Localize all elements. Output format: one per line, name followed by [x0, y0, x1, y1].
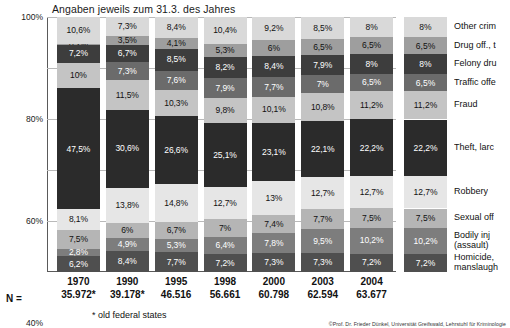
- bar-segment[interactable]: 7,3%: [106, 17, 149, 36]
- bar-segment[interactable]: 7,2%: [350, 254, 393, 272]
- bar-segment[interactable]: 2,8%: [57, 249, 100, 256]
- bar-segment[interactable]: 6,5%: [350, 37, 393, 54]
- bar-segment[interactable]: 3,5%: [106, 36, 149, 45]
- bar-segment[interactable]: 8%: [350, 54, 393, 74]
- bar-segment[interactable]: 9,2%: [252, 17, 295, 40]
- legend-item[interactable]: 6,5%Drug off., t: [404, 37, 510, 54]
- bar-column[interactable]: 7,3%3,5%6,7%7,3%11,5%30,6%13,8%6%4,9%8,4…: [103, 17, 152, 272]
- bar-segment[interactable]: 10,3%: [155, 90, 198, 116]
- bar-stack: 7,3%3,5%6,7%7,3%11,5%30,6%13,8%6%4,9%8,4…: [106, 17, 149, 272]
- legend-item[interactable]: 11,2%Fraud: [404, 91, 510, 120]
- bar-segment[interactable]: 6,5%: [350, 74, 393, 91]
- bar-column[interactable]: 10,6%0,2%7,2%10%47,5%8,1%7,5%2,8%6,2%: [54, 17, 103, 272]
- bar-segment[interactable]: 8%: [350, 17, 393, 37]
- bar-segment[interactable]: 22,1%: [301, 121, 344, 177]
- legend-item[interactable]: 22,2%Theft, larc: [404, 120, 510, 177]
- legend-item[interactable]: 7,2%Homicide,manslaugh: [404, 254, 510, 272]
- bar-column[interactable]: 9,2%6%8,4%7,7%10,1%23,1%13%7,4%7,8%7,3%: [249, 17, 298, 272]
- bar-segment[interactable]: 23,1%: [252, 123, 295, 182]
- bar-segment[interactable]: 7,9%: [301, 55, 344, 75]
- bar-segment[interactable]: 8,5%: [155, 49, 198, 71]
- legend-item[interactable]: 8%Other crim: [404, 17, 510, 37]
- bar-segment[interactable]: 7,5%: [57, 230, 100, 249]
- bar-segment[interactable]: 7%: [301, 75, 344, 93]
- bar-segment[interactable]: 7,8%: [252, 233, 295, 253]
- bar-segment[interactable]: 9,5%: [301, 229, 344, 253]
- legend-swatch: 12,7%: [404, 176, 447, 208]
- bar-segment[interactable]: 7%: [204, 219, 247, 237]
- bar-segment[interactable]: 6,5%: [301, 39, 344, 56]
- bar-segment[interactable]: 10,6%: [57, 17, 100, 44]
- bar-segment-label: 8,1%: [69, 215, 88, 224]
- bar-segment[interactable]: 7,5%: [350, 208, 393, 227]
- bar-columns: 10,6%0,2%7,2%10%47,5%8,1%7,5%2,8%6,2%7,3…: [47, 17, 396, 272]
- bar-segment[interactable]: 7,3%: [106, 62, 149, 81]
- bar-segment[interactable]: 10,4%: [204, 17, 247, 44]
- bar-column[interactable]: 8%6,5%8%6,5%11,2%22,2%12,7%7,5%10,2%7,2%: [347, 17, 396, 272]
- legend-item[interactable]: 10,2%Bodily inj(assault): [404, 228, 510, 254]
- bar-segment-label: 10,2%: [360, 236, 384, 245]
- bar-stack: 10,4%5,3%8,2%7,9%9,8%25,1%12,7%7%6,4%7,2…: [204, 17, 247, 272]
- bar-segment[interactable]: 11,2%: [350, 91, 393, 120]
- bar-segment[interactable]: 10,8%: [301, 93, 344, 121]
- bar-segment[interactable]: 13%: [252, 181, 295, 214]
- bar-segment[interactable]: 5,3%: [204, 44, 247, 58]
- bar-segment[interactable]: 8,4%: [252, 56, 295, 77]
- bar-segment[interactable]: 6,7%: [155, 222, 198, 239]
- bar-segment[interactable]: 8,2%: [204, 57, 247, 78]
- bar-segment[interactable]: 6,7%: [106, 45, 149, 62]
- bar-segment[interactable]: 7,7%: [301, 209, 344, 229]
- bar-segment[interactable]: 8,4%: [106, 251, 149, 272]
- bar-segment[interactable]: 10%: [57, 63, 100, 88]
- bar-segment[interactable]: 47,5%: [57, 88, 100, 209]
- bar-segment[interactable]: 25,1%: [204, 123, 247, 187]
- bar-segment[interactable]: 7,4%: [252, 215, 295, 234]
- bar-segment[interactable]: 5,3%: [155, 239, 198, 253]
- legend-item[interactable]: 6,5%Traffic offe: [404, 74, 510, 91]
- bar-segment[interactable]: 12,7%: [350, 176, 393, 208]
- bar-segment[interactable]: 9,8%: [204, 98, 247, 123]
- bar-segment[interactable]: 4,9%: [106, 238, 149, 250]
- bar-segment[interactable]: 7,6%: [155, 71, 198, 90]
- legend-swatch-label: 10,2%: [413, 236, 437, 246]
- x-axis-year-label: 1995: [152, 276, 201, 287]
- bar-segment[interactable]: 8,1%: [57, 209, 100, 230]
- bar-segment[interactable]: 10,1%: [252, 97, 295, 123]
- bar-segment-label: 11,5%: [116, 91, 139, 100]
- bar-segment[interactable]: 7,2%: [204, 254, 247, 272]
- legend-item[interactable]: 12,7%Robbery: [404, 176, 510, 208]
- bar-column[interactable]: 10,4%5,3%8,2%7,9%9,8%25,1%12,7%7%6,4%7,2…: [201, 17, 250, 272]
- bar-segment[interactable]: 12,7%: [301, 177, 344, 209]
- bar-segment[interactable]: 6,4%: [204, 237, 247, 253]
- bar-segment[interactable]: 8,4%: [155, 17, 198, 38]
- bar-segment[interactable]: 7,3%: [252, 253, 295, 272]
- bar-segment-label: 6,5%: [362, 41, 381, 50]
- bar-segment[interactable]: 6%: [106, 223, 149, 238]
- bar-segment[interactable]: 7,7%: [155, 252, 198, 272]
- bar-segment[interactable]: 10,2%: [350, 228, 393, 254]
- bar-segment[interactable]: 11,5%: [106, 80, 149, 109]
- bar-segment-label: 7,6%: [167, 76, 186, 85]
- x-axis-n-value: 35.972*: [54, 289, 103, 300]
- bar-segment[interactable]: 6,2%: [57, 256, 100, 272]
- bar-segment[interactable]: 7,2%: [57, 45, 100, 63]
- bar-segment[interactable]: 22,2%: [350, 119, 393, 176]
- bar-column[interactable]: 8,5%6,5%7,9%7%10,8%22,1%12,7%7,7%9,5%7,3…: [298, 17, 347, 272]
- bar-segment[interactable]: 26,6%: [155, 116, 198, 184]
- bar-segment[interactable]: 7,3%: [301, 253, 344, 272]
- bar-segment[interactable]: 12,7%: [204, 187, 247, 219]
- plot-area: 100%80%60%40%20%0% 10,6%0,2%7,2%10%47,5%…: [47, 17, 396, 272]
- bar-segment[interactable]: 13,8%: [106, 188, 149, 223]
- bar-segment[interactable]: 8,5%: [301, 17, 344, 39]
- bar-segment[interactable]: 7,9%: [204, 78, 247, 98]
- bar-segment-label: 8%: [366, 23, 378, 32]
- bar-segment[interactable]: 30,6%: [106, 110, 149, 188]
- credit-line: ©Prof. Dr. Frieder Dünkel, Universität G…: [329, 321, 506, 327]
- legend-item[interactable]: 8%Felony dru: [404, 54, 510, 74]
- bar-column[interactable]: 8,4%4,1%8,5%7,6%10,3%26,6%14,8%6,7%5,3%7…: [152, 17, 201, 272]
- legend-item[interactable]: 7,5%Sexual off: [404, 209, 510, 228]
- bar-segment[interactable]: 6%: [252, 40, 295, 55]
- bar-segment[interactable]: 14,8%: [155, 184, 198, 222]
- bar-segment[interactable]: 7,7%: [252, 77, 295, 97]
- bar-segment[interactable]: 4,1%: [155, 38, 198, 48]
